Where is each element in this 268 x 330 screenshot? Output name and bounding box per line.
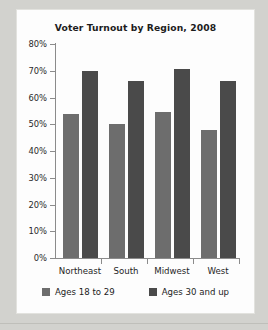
plot-area: 0%10%20%30%40%50%60%70%80% NortheastSout… [55,44,239,258]
bar-midwest-series-0 [155,112,171,258]
chart-legend: Ages 18 to 29Ages 30 and up [17,287,254,297]
bar-south-series-0 [109,124,125,258]
y-tick-label: 80% [28,39,47,49]
legend-swatch-icon [149,288,157,296]
y-tick-label: 60% [28,93,47,103]
bar-west-series-0 [201,130,217,258]
y-tick-label: 0% [34,253,47,263]
x-separator-tick [101,258,102,264]
y-tick-50% [50,124,55,125]
x-label-west: West [207,266,228,276]
y-tick-0% [50,258,55,259]
y-axis-line [55,43,56,258]
legend-item-1: Ages 30 and up [149,287,229,297]
x-separator-tick [239,258,240,264]
legend-swatch-icon [42,288,50,296]
x-separator-tick [147,258,148,264]
y-tick-60% [50,98,55,99]
y-tick-label: 70% [28,66,47,76]
legend-item-0: Ages 18 to 29 [42,287,115,297]
y-tick-label: 10% [28,226,47,236]
x-label-midwest: Midwest [154,266,189,276]
legend-label: Ages 18 to 29 [55,287,115,297]
chart-panel: Voter Turnout by Region, 2008 0%10%20%30… [17,10,254,313]
y-tick-80% [50,44,55,45]
y-tick-30% [50,178,55,179]
y-tick-label: 40% [28,146,47,156]
chart-page: Voter Turnout by Region, 2008 0%10%20%30… [0,0,268,330]
bar-northeast-series-1 [82,71,98,258]
y-tick-10% [50,231,55,232]
y-tick-20% [50,205,55,206]
bar-northeast-series-0 [63,114,79,258]
bar-south-series-1 [128,81,144,258]
chart-title: Voter Turnout by Region, 2008 [17,22,254,33]
y-tick-70% [50,71,55,72]
x-label-south: South [114,266,139,276]
y-tick-label: 30% [28,173,47,183]
bar-midwest-series-1 [174,69,190,258]
legend-label: Ages 30 and up [162,287,229,297]
y-tick-label: 50% [28,119,47,129]
bar-west-series-1 [220,81,236,258]
y-tick-40% [50,151,55,152]
y-tick-label: 20% [28,200,47,210]
x-label-northeast: Northeast [59,266,101,276]
x-separator-tick [193,258,194,264]
